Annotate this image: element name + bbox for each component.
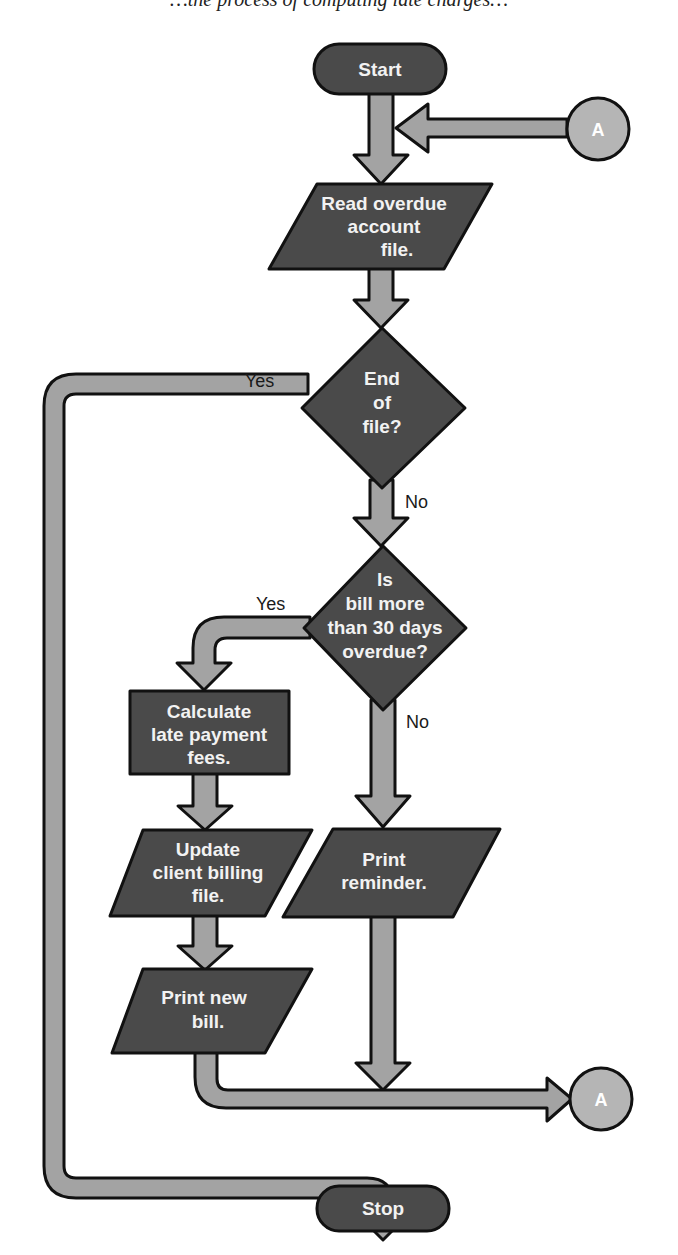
read-file-line-1: Read overdue <box>321 193 447 214</box>
eof-line-3: file? <box>362 416 401 437</box>
read-file-io: Read overdue account file. <box>269 184 492 269</box>
eof-line-1: End <box>364 368 400 389</box>
start-terminal: Start <box>314 44 446 94</box>
stop-terminal: Stop <box>317 1186 449 1231</box>
arrow-read-to-eof <box>354 268 408 328</box>
connector-a-bottom: A <box>570 1068 632 1130</box>
read-file-line-3: file. <box>381 239 414 260</box>
start-label: Start <box>358 59 402 80</box>
stop-label: Stop <box>362 1198 404 1219</box>
overdue-line-2: bill more <box>345 593 424 614</box>
arrow-reminder-to-merge <box>356 916 410 1090</box>
eof-yes-label: Yes <box>245 371 274 391</box>
eof-decision: End of file? <box>302 328 465 488</box>
update-line-1: Update <box>176 839 240 860</box>
reminder-line-1: Print <box>362 849 406 870</box>
connector-a-bottom-label: A <box>595 1090 608 1110</box>
overdue-no-label: No <box>406 712 429 732</box>
update-billing-io: Update client billing file. <box>110 830 312 916</box>
arrow-check-no-to-reminder <box>356 700 410 827</box>
arrow-calc-to-update <box>178 773 232 830</box>
connector-a-top-label: A <box>592 120 605 140</box>
arrow-eof-no-to-check <box>354 480 408 546</box>
calc-line-1: Calculate <box>167 701 251 722</box>
calc-line-3: fees. <box>187 747 230 768</box>
update-line-2: client billing <box>153 862 264 883</box>
eof-no-label: No <box>405 492 428 512</box>
read-file-line-2: account <box>348 216 422 237</box>
arrow-check-yes-to-calc <box>177 617 310 690</box>
eof-line-2: of <box>373 392 392 413</box>
arrow-start-to-read <box>354 92 408 184</box>
arrow-connector-a-to-main <box>396 104 567 152</box>
overdue-decision: Is bill more than 30 days overdue? <box>304 546 466 710</box>
arrow-update-to-print-bill <box>178 915 232 970</box>
overdue-line-1: Is <box>377 569 393 590</box>
print-reminder-io: Print reminder. <box>283 829 500 917</box>
connector-a-top: A <box>567 98 629 160</box>
flowchart: .pipe { fill: #a3a3a3; stroke: #111; str… <box>0 0 678 1255</box>
overdue-line-3: than 30 days <box>327 617 442 638</box>
overdue-line-4: overdue? <box>342 641 428 662</box>
update-line-3: file. <box>192 885 225 906</box>
reminder-line-2: reminder. <box>341 872 427 893</box>
print-bill-line-1: Print new <box>161 987 247 1008</box>
print-bill-line-2: bill. <box>192 1011 225 1032</box>
calc-fees-process: Calculate late payment fees. <box>130 691 289 774</box>
print-bill-io: Print new bill. <box>112 969 312 1053</box>
calc-line-2: late payment <box>151 724 268 745</box>
overdue-yes-label: Yes <box>256 594 285 614</box>
